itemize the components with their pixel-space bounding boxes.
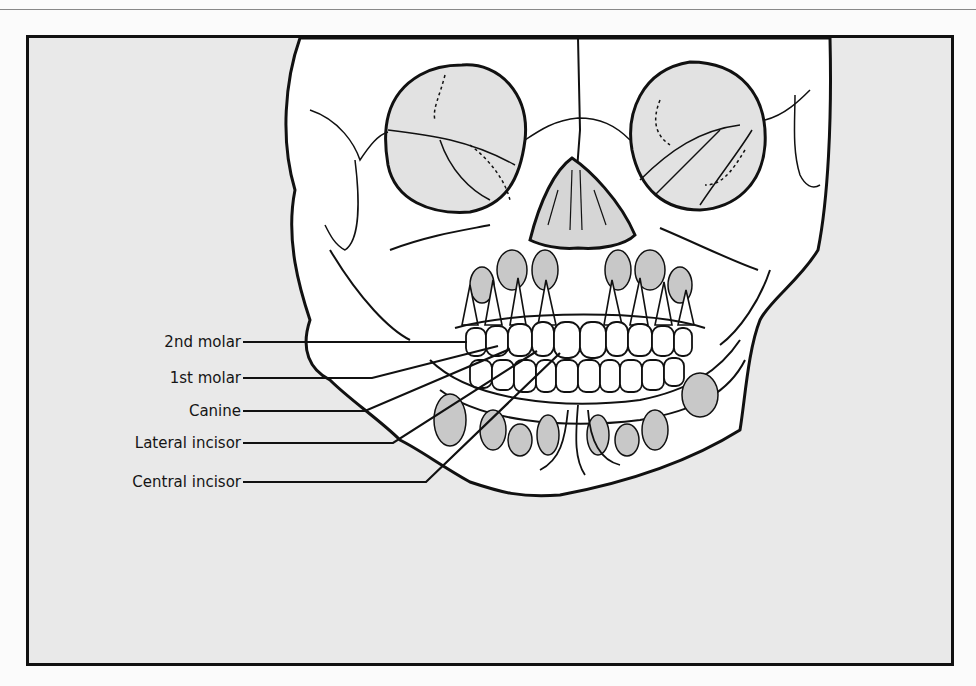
label-2nd-molar: 2nd molar	[41, 333, 241, 351]
label-central-incisor: Central incisor	[41, 473, 241, 491]
label-canine: Canine	[41, 402, 241, 420]
right-orbit	[631, 62, 766, 210]
label-lateral-incisor: Lateral incisor	[41, 434, 241, 452]
left-orbit	[386, 65, 526, 213]
label-1st-molar: 1st molar	[41, 369, 241, 387]
